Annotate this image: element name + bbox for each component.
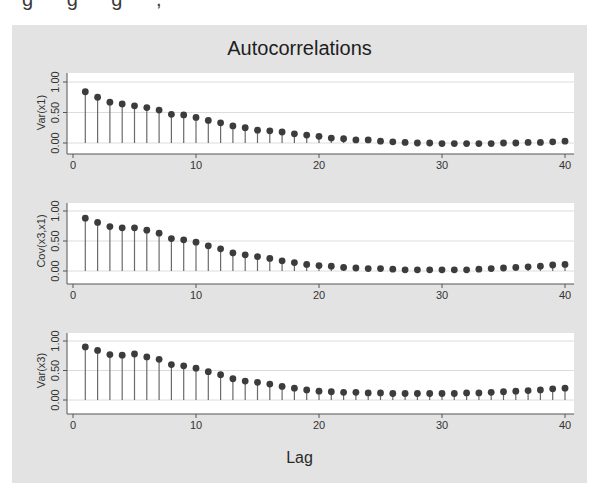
stem-marker bbox=[316, 262, 323, 269]
stem-marker bbox=[217, 245, 224, 252]
stem-marker bbox=[205, 117, 212, 124]
stem-marker bbox=[549, 262, 556, 269]
stem-marker bbox=[205, 368, 212, 375]
stem-marker bbox=[107, 351, 114, 358]
stem-marker bbox=[131, 351, 138, 358]
stem-marker bbox=[316, 133, 323, 140]
stem-marker bbox=[402, 139, 409, 146]
x-tick-label: 20 bbox=[313, 289, 325, 301]
stem-marker bbox=[230, 375, 237, 382]
stem-marker bbox=[537, 263, 544, 270]
stem-marker bbox=[389, 138, 396, 145]
stem-marker bbox=[512, 264, 519, 271]
plot-area bbox=[67, 73, 574, 154]
stem-marker bbox=[549, 385, 556, 392]
stem-marker bbox=[94, 347, 101, 354]
stem-marker bbox=[291, 259, 298, 266]
stem-marker bbox=[266, 127, 273, 134]
stem-marker bbox=[353, 137, 360, 144]
stem-marker bbox=[463, 390, 470, 397]
stem-marker bbox=[291, 385, 298, 392]
stem-marker bbox=[562, 138, 569, 145]
stem-marker bbox=[131, 102, 138, 109]
stem-marker bbox=[217, 119, 224, 126]
y-tick-label: 1.00 bbox=[49, 330, 61, 351]
stem-marker bbox=[119, 352, 126, 359]
stem-marker bbox=[340, 389, 347, 396]
y-tick-label: 0.00 bbox=[49, 132, 61, 153]
stem-marker bbox=[230, 250, 237, 257]
stem-marker bbox=[562, 385, 569, 392]
stem-marker bbox=[107, 223, 114, 230]
stem-marker bbox=[119, 101, 126, 108]
stem-marker bbox=[143, 354, 150, 361]
stem-marker bbox=[82, 215, 89, 222]
stem-marker bbox=[463, 266, 470, 273]
y-tick-label: 0.00 bbox=[49, 260, 61, 281]
stem-marker bbox=[193, 239, 200, 246]
stem-marker bbox=[377, 138, 384, 145]
stem-marker bbox=[180, 112, 187, 119]
stem-marker bbox=[82, 88, 89, 95]
stem-marker bbox=[266, 255, 273, 262]
panel-2: 0.000.501.00Cov(x3,x1)010203040 bbox=[35, 200, 574, 301]
stem-marker bbox=[180, 362, 187, 369]
stem-marker bbox=[193, 365, 200, 372]
stem-marker bbox=[414, 390, 421, 397]
stem-marker bbox=[500, 388, 507, 395]
stem-marker bbox=[82, 344, 89, 351]
x-tick-label: 40 bbox=[559, 289, 571, 301]
stem-marker bbox=[279, 383, 286, 390]
stem-marker bbox=[500, 265, 507, 272]
stem-marker bbox=[476, 266, 483, 273]
stem-marker bbox=[156, 107, 163, 114]
stem-marker bbox=[549, 138, 556, 145]
plot-area bbox=[67, 203, 574, 284]
x-tick-label: 10 bbox=[190, 289, 202, 301]
stem-marker bbox=[414, 140, 421, 147]
stem-marker bbox=[156, 230, 163, 237]
stem-marker bbox=[426, 140, 433, 147]
stem-marker bbox=[143, 227, 150, 234]
x-axis-label: Lag bbox=[0, 449, 599, 467]
stem-marker bbox=[242, 251, 249, 258]
stem-marker bbox=[168, 235, 175, 242]
stem-marker bbox=[107, 99, 114, 106]
stem-marker bbox=[537, 139, 544, 146]
stem-marker bbox=[168, 111, 175, 118]
stem-marker bbox=[131, 224, 138, 231]
stem-marker bbox=[537, 387, 544, 394]
stem-marker bbox=[451, 390, 458, 397]
stem-marker bbox=[316, 388, 323, 395]
x-tick-label: 0 bbox=[70, 289, 76, 301]
stem-marker bbox=[279, 257, 286, 264]
x-tick-label: 20 bbox=[313, 159, 325, 171]
stem-marker bbox=[340, 135, 347, 142]
plot-area bbox=[67, 333, 574, 414]
y-tick-label: 0.50 bbox=[49, 230, 61, 251]
panel-1: 0.000.501.00Var(x1)010203040 bbox=[35, 71, 574, 171]
stem-marker bbox=[217, 371, 224, 378]
stem-marker bbox=[303, 132, 310, 139]
stem-marker bbox=[525, 139, 532, 146]
stem-marker bbox=[451, 140, 458, 147]
stem-marker bbox=[254, 253, 261, 260]
y-axis-label: Cov(x3,x1) bbox=[35, 214, 47, 267]
stem-marker bbox=[439, 266, 446, 273]
stem-marker bbox=[156, 356, 163, 363]
y-tick-label: 1.00 bbox=[49, 71, 61, 92]
stem-marker bbox=[426, 390, 433, 397]
stem-marker bbox=[426, 266, 433, 273]
stem-marker bbox=[488, 140, 495, 147]
stem-marker bbox=[94, 94, 101, 101]
stem-marker bbox=[512, 388, 519, 395]
stem-marker bbox=[389, 390, 396, 397]
stem-marker bbox=[389, 266, 396, 273]
y-tick-label: 1.00 bbox=[49, 200, 61, 221]
stem-marker bbox=[414, 266, 421, 273]
stem-marker bbox=[303, 387, 310, 394]
stem-marker bbox=[279, 129, 286, 136]
stem-marker bbox=[525, 263, 532, 270]
x-tick-label: 0 bbox=[70, 419, 76, 431]
stem-marker bbox=[365, 390, 372, 397]
